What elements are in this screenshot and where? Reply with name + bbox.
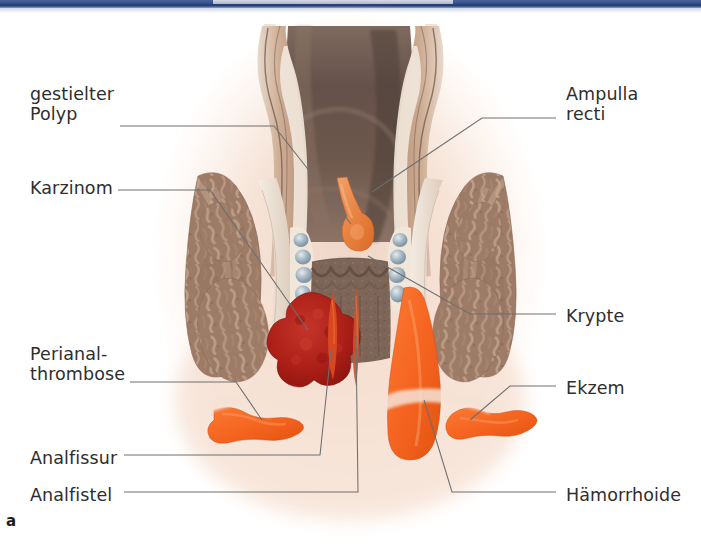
label-perianalthrombose: Perianal- thrombose <box>30 344 125 385</box>
label-karzinom: Karzinom <box>30 178 113 198</box>
label-ekzem: Ekzem <box>566 378 625 398</box>
label-analfissur: Analfissur <box>30 448 117 468</box>
label-krypte: Krypte <box>566 306 624 326</box>
label-ampulla-recti: Ampulla recti <box>566 84 638 125</box>
label-gestielter-polyp: gestielter Polyp <box>30 84 114 125</box>
label-analfistel: Analfistel <box>30 485 112 505</box>
label-haemorrhoide: Hämorrhoide <box>566 485 681 505</box>
figure-caption: a <box>6 512 16 530</box>
figure-page: gestielter Polyp Karzinom Perianal- thro… <box>0 0 701 546</box>
